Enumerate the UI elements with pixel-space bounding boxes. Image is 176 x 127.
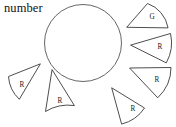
wedge-r-bottom-right-shape	[112, 88, 145, 124]
central-circle	[45, 5, 122, 82]
diagram-svg: G R R R R R	[0, 0, 176, 127]
wedge-r-right-upper-shape	[131, 34, 172, 63]
wedge-r-right-lower-label: R	[155, 76, 160, 84]
wedge-group-r-right-lower: R	[130, 68, 171, 98]
wedge-r-left-label: R	[20, 81, 25, 89]
wedge-group-g-top-right: G	[127, 4, 168, 28]
wedge-r-bottom-center-shape	[46, 70, 75, 112]
wedge-r-bottom-center-label: R	[58, 97, 63, 105]
figure-canvas: number G R R R R R	[0, 0, 176, 127]
wedge-g-top-right-shape	[127, 4, 168, 28]
wedge-r-right-upper-label: R	[158, 43, 163, 51]
wedge-g-top-right-label: G	[149, 13, 154, 21]
wedge-group-r-right-upper: R	[131, 34, 172, 63]
wedge-r-bottom-right-label: R	[131, 105, 136, 113]
wedge-r-right-lower-shape	[130, 68, 171, 98]
wedge-group-r-left: R	[9, 64, 41, 99]
wedge-group-r-bottom-center: R	[46, 70, 75, 112]
wedge-group-r-bottom-right: R	[112, 88, 145, 124]
